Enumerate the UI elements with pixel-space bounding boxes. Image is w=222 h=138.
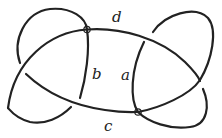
arc-d-lower-right (138, 89, 207, 128)
label-d: d (112, 10, 122, 25)
arc-a-top-loop (138, 12, 213, 112)
label-b: b (92, 67, 102, 82)
arc-d (8, 29, 200, 108)
arc-a (133, 42, 144, 112)
arc-b (18, 9, 88, 98)
label-a: a (121, 68, 130, 83)
label-c: c (104, 119, 112, 134)
arc-left-bottom (8, 107, 71, 123)
